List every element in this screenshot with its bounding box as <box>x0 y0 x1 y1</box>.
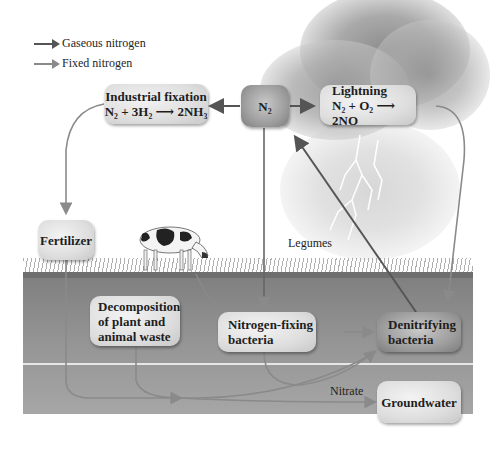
legend-fixed-label: Fixed nitrogen <box>62 56 132 71</box>
node-nitrogen-fixing-bacteria: Nitrogen-fixing bacteria <box>218 312 316 352</box>
arrow-nitrogen-fixing-down <box>264 352 374 385</box>
lightning-equation: N₂ + O₂ ⟶ 2NO <box>332 98 416 128</box>
arrow-industrial-to-fertilizer <box>66 104 104 212</box>
arrow-grazing-to-nitrogen-fixing <box>196 274 220 310</box>
nitrogen-fixing-line2: bacteria <box>228 332 316 347</box>
decomposition-line1: Decomposition <box>98 299 180 314</box>
fertilizer-title: Fertilizer <box>40 233 92 248</box>
industrial-fixation-equation: N₂ + 3H₂ ⟶ 2NH₃ <box>105 104 208 119</box>
node-n2: N₂ <box>241 85 289 127</box>
gaseous-arrow-icon <box>34 43 56 45</box>
decomposition-line2: of plant and <box>98 314 180 329</box>
node-lightning: Lightning N₂ + O₂ ⟶ 2NO <box>320 85 416 125</box>
decomposition-line3: animal waste <box>98 329 180 344</box>
n2-title: N₂ <box>258 99 271 114</box>
legend-gaseous-label: Gaseous nitrogen <box>62 36 146 51</box>
nitrogen-fixing-line1: Nitrogen-fixing <box>228 317 316 332</box>
node-denitrifying-bacteria: Denitrifying bacteria <box>377 312 461 352</box>
groundwater-title: Groundwater <box>381 395 457 410</box>
arrow-lightning-to-denitrifying <box>436 106 464 300</box>
lightning-title: Lightning <box>332 83 416 98</box>
node-industrial-fixation: Industrial fixation N₂ + 3H₂ ⟶ 2NH₃ <box>104 84 208 124</box>
denitrifying-line2: bacteria <box>388 332 461 347</box>
node-decomposition: Decomposition of plant and animal waste <box>90 296 180 346</box>
legumes-label: Legumes <box>288 236 332 251</box>
node-fertilizer: Fertilizer <box>38 220 94 260</box>
legend-gaseous: Gaseous nitrogen <box>34 36 146 51</box>
arrow-decomposition-down <box>136 345 180 398</box>
arrow-denitrifying-to-n2 <box>296 138 416 312</box>
legend-fixed: Fixed nitrogen <box>34 56 132 71</box>
node-groundwater: Groundwater <box>377 381 461 423</box>
nitrate-label: Nitrate <box>330 384 363 399</box>
fixed-arrow-icon <box>34 63 56 65</box>
denitrifying-line1: Denitrifying <box>388 317 461 332</box>
industrial-fixation-title: Industrial fixation <box>105 89 207 104</box>
